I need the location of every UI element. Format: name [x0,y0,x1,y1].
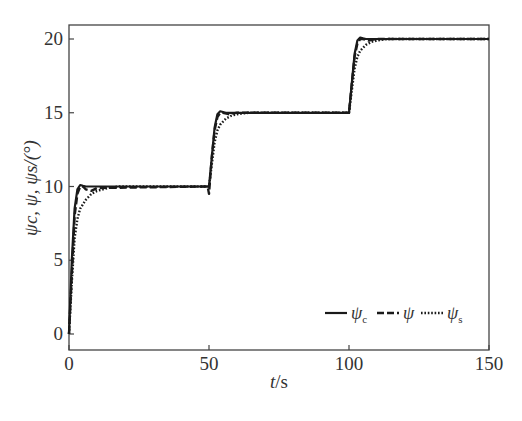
y-tick-label: 15 [44,102,63,123]
x-tick-label: 50 [200,353,219,374]
legend-label: ψs [447,303,462,325]
legend-label: ψ [403,303,415,323]
y-tick-label: 10 [44,176,63,197]
series-dashed [69,39,489,334]
legend: ψcψψs [325,303,462,325]
y-tick-label: 5 [54,249,64,270]
step-response-chart: 050100150 05101520 t/s ψc, ψ, ψs/(°) ψcψ… [0,0,522,421]
y-tick-label: 0 [54,323,64,344]
data-series [69,38,489,335]
x-tick-label: 100 [335,353,364,374]
series-solid [69,38,489,335]
x-tick-label: 0 [64,353,74,374]
y-tick-label: 20 [44,28,63,49]
x-tick-label: 150 [475,353,504,374]
x-axis-label: t/s [270,371,288,392]
y-axis-label: ψc, ψ, ψs/(°) [20,140,42,236]
legend-label: ψc [351,303,367,325]
